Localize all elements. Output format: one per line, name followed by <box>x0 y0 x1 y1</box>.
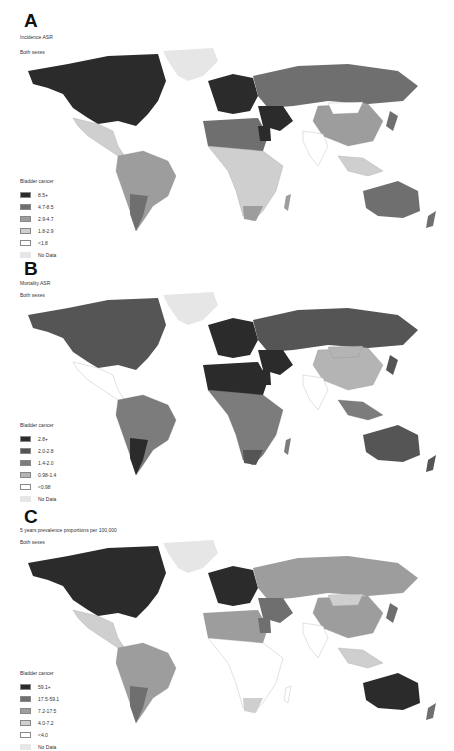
map-legend: Bladder cancer 59.1+ 17.5-59.1 7.2-17.5 … <box>20 670 59 751</box>
legend-label: 2.0-2.8 <box>38 448 54 454</box>
legend-label: <0.98 <box>38 484 51 490</box>
panel-letter: C <box>24 506 38 528</box>
legend-label: <1.8 <box>38 240 48 246</box>
legend-swatch <box>20 708 31 714</box>
legend-item: 2.8+ <box>20 433 56 445</box>
legend-item: <1.8 <box>20 237 56 249</box>
legend-swatch <box>20 472 31 478</box>
world-map <box>18 46 438 236</box>
panel-b: B Mortality ASR Both sexes Bladder cance… <box>0 250 454 500</box>
legend-swatch <box>20 484 31 490</box>
legend-swatch <box>20 720 31 726</box>
legend-label: No Data <box>38 744 56 750</box>
legend-label: <4.0 <box>38 732 48 738</box>
legend-swatch <box>20 460 31 466</box>
legend-item: 59.1+ <box>20 681 59 693</box>
map-title: Incidence ASR <box>20 34 53 40</box>
legend-item: 4.7-8.5 <box>20 201 56 213</box>
legend-item: 2.9-4.7 <box>20 213 56 225</box>
legend-item: 7.2-17.5 <box>20 705 59 717</box>
legend-swatch <box>20 192 31 198</box>
map-legend: Bladder cancer 2.8+ 2.0-2.8 1.4-2.0 0.98… <box>20 422 56 505</box>
legend-item: 1.8-2.9 <box>20 225 56 237</box>
legend-swatch <box>20 204 31 210</box>
map-title: 5 years prevalence proportions per 100,0… <box>20 527 117 533</box>
panel-c: C 5 years prevalence proportions per 100… <box>0 500 454 751</box>
legend-title: Bladder cancer <box>20 670 59 676</box>
legend-item: <0.98 <box>20 481 56 493</box>
legend-item: 17.5-59.1 <box>20 693 59 705</box>
legend-label: 1.8-2.9 <box>38 228 54 234</box>
map-title: Mortality ASR <box>20 280 50 286</box>
legend-title: Bladder cancer <box>20 178 56 184</box>
legend-item: 4.0-7.2 <box>20 717 59 729</box>
legend-label: 17.5-59.1 <box>38 696 59 702</box>
world-map <box>18 290 438 480</box>
legend-label: 0.98-1.4 <box>38 472 56 478</box>
legend-label: 2.9-4.7 <box>38 216 54 222</box>
legend-label: 2.8+ <box>38 436 48 442</box>
legend-label: 4.0-7.2 <box>38 720 54 726</box>
legend-item: 8.5+ <box>20 189 56 201</box>
legend-label: 59.1+ <box>38 684 51 690</box>
legend-swatch <box>20 216 31 222</box>
legend-label: 7.2-17.5 <box>38 708 56 714</box>
legend-label: 4.7-8.5 <box>38 204 54 210</box>
legend-swatch <box>20 744 31 750</box>
legend-swatch <box>20 448 31 454</box>
legend-swatch <box>20 228 31 234</box>
world-map <box>18 538 438 728</box>
panel-letter: A <box>24 10 38 32</box>
legend-item: 2.0-2.8 <box>20 445 56 457</box>
legend-label: 1.4-2.0 <box>38 460 54 466</box>
legend-swatch <box>20 732 31 738</box>
legend-swatch <box>20 696 31 702</box>
legend-item: <4.0 <box>20 729 59 741</box>
legend-swatch <box>20 684 31 690</box>
panel-letter: B <box>24 258 38 280</box>
legend-title: Bladder cancer <box>20 422 56 428</box>
legend-item: 0.98-1.4 <box>20 469 56 481</box>
legend-swatch <box>20 436 31 442</box>
map-legend: Bladder cancer 8.5+ 4.7-8.5 2.9-4.7 1.8-… <box>20 178 56 261</box>
legend-swatch <box>20 240 31 246</box>
legend-label: 8.5+ <box>38 192 48 198</box>
legend-item: 1.4-2.0 <box>20 457 56 469</box>
legend-item: No Data <box>20 741 59 751</box>
panel-a: A Incidence ASR Both sexes <box>0 0 454 250</box>
